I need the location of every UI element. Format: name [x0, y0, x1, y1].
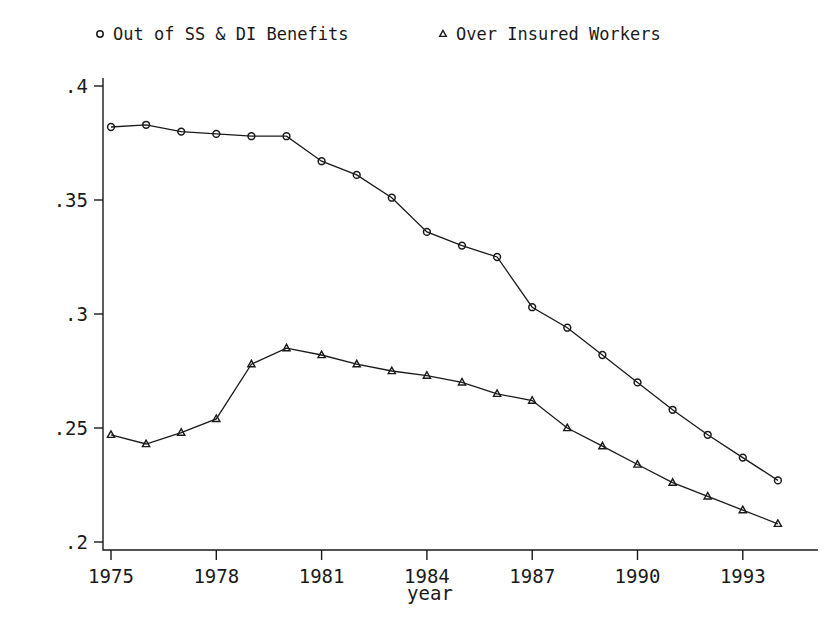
chart-legend: Out of SS & DI BenefitsOver Insured Work…: [97, 24, 661, 44]
y-axis-tick-label: .2: [65, 531, 88, 553]
x-axis-tick-label: 1990: [615, 565, 661, 587]
y-axis-tick-label: .25: [54, 417, 88, 439]
circle-marker-icon: [97, 31, 103, 37]
series-layer: [107, 121, 781, 526]
x-axis-title: year: [407, 582, 453, 604]
y-axis-tick-label: .3: [65, 303, 88, 325]
y-axis-tick-label: .35: [54, 189, 88, 211]
x-axis-tick-label: 1981: [299, 565, 345, 587]
triangle-marker-icon: [107, 431, 114, 438]
chart-page: Out of SS & DI BenefitsOver Insured Work…: [0, 0, 830, 626]
legend-label-1: Out of SS & DI Benefits: [113, 24, 348, 44]
triangle-marker-icon: [440, 30, 447, 36]
x-axis-tick-label: 1978: [193, 565, 239, 587]
axis-spine: [103, 78, 818, 550]
x-axis-tick-label: 1987: [509, 565, 555, 587]
y-axis-tick-label: .4: [65, 75, 88, 97]
series-line-2: [111, 348, 778, 524]
y-axis: .2.25.3.35.4: [54, 75, 818, 553]
series-line-1: [111, 125, 778, 481]
line-chart: Out of SS & DI BenefitsOver Insured Work…: [0, 0, 830, 626]
x-axis-tick-label: 1993: [720, 565, 766, 587]
legend-label-2: Over Insured Workers: [456, 24, 661, 44]
x-axis-tick-label: 1975: [88, 565, 134, 587]
